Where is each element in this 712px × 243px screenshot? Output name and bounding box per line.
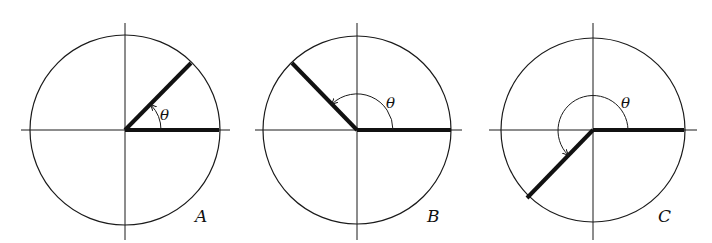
angle-diagram: θ A θ B θ C <box>0 0 712 243</box>
theta-label: θ <box>160 106 169 124</box>
panel-label-a: A <box>193 206 207 226</box>
panel-label-c: C <box>658 206 671 226</box>
panel-label-b: B <box>426 206 440 226</box>
terminal-side <box>292 63 357 130</box>
panel-b: θ B <box>255 23 462 240</box>
terminal-side <box>527 130 593 198</box>
theta-label: θ <box>621 94 630 112</box>
terminal-side <box>125 63 191 130</box>
panel-a: θ A <box>21 23 230 240</box>
theta-label: θ <box>386 94 395 112</box>
panel-c: θ C <box>489 23 697 240</box>
